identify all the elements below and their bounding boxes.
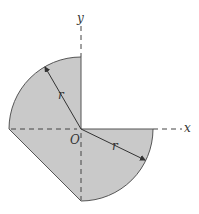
x-axis-label: x [184, 121, 191, 135]
y-axis-label: y [76, 11, 84, 25]
origin-label: O [70, 133, 80, 147]
diagram-canvas: y x O r r [0, 0, 199, 214]
